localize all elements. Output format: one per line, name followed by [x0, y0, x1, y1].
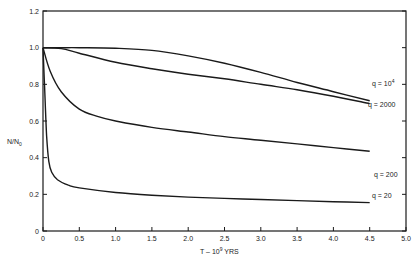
y-axis-ticks: 00.20.40.60.81.01.2 [29, 8, 406, 235]
x-tick-label: 0 [41, 235, 45, 242]
curves [43, 48, 370, 203]
x-tick-label: 1.5 [147, 235, 157, 242]
x-tick-label: 2.5 [220, 235, 230, 242]
series-label: q = 200 [374, 171, 398, 179]
series-labels: q = 104q = 2000q = 200q = 20 [368, 78, 398, 200]
x-tick-label: 3.0 [256, 235, 266, 242]
x-tick-label: 5.0 [401, 235, 411, 242]
curve-q-200 [43, 48, 370, 152]
curve-q-10-4 [43, 48, 370, 101]
y-axis-label: N/N0 [7, 138, 22, 147]
y-tick-label: 0 [35, 228, 39, 235]
y-tick-label: 1.0 [29, 44, 39, 51]
x-axis-ticks: 00.51.01.52.02.53.03.54.04.55.0 [41, 227, 411, 242]
y-tick-label: 0.2 [29, 191, 39, 198]
series-label: q = 20 [372, 192, 392, 200]
series-label: q = 104 [372, 78, 395, 88]
x-tick-label: 3.5 [292, 235, 302, 242]
curve-q-20 [43, 48, 370, 203]
x-tick-label: 2.0 [183, 235, 193, 242]
x-tick-label: 1.0 [111, 235, 121, 242]
x-tick-label: 0.5 [74, 235, 84, 242]
y-tick-label: 1.2 [29, 8, 39, 15]
y-tick-label: 0.6 [29, 118, 39, 125]
x-axis-label: T – 109 YRS [200, 246, 239, 255]
x-tick-label: 4.0 [329, 235, 339, 242]
y-tick-label: 0.8 [29, 81, 39, 88]
curve-q-2000 [43, 48, 370, 104]
x-tick-label: 4.5 [365, 235, 375, 242]
series-label: q = 2000 [368, 101, 396, 109]
chart: 00.51.01.52.02.53.03.54.04.55.0 00.20.40… [0, 0, 416, 264]
y-tick-label: 0.4 [29, 154, 39, 161]
